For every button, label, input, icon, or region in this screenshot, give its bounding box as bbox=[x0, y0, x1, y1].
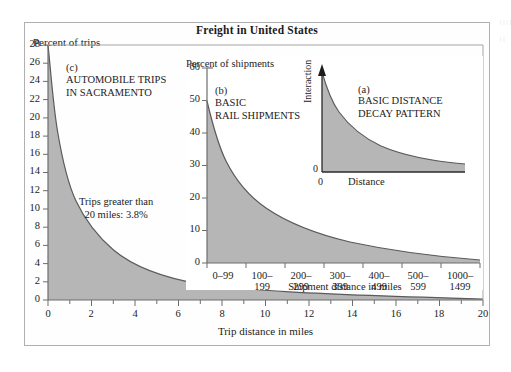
main-x-ticks bbox=[48, 300, 483, 306]
main-y-tick-8: 8 bbox=[14, 220, 40, 231]
main-x-tick-10: 10 bbox=[251, 308, 279, 319]
main-y-tick-20: 20 bbox=[14, 111, 40, 122]
inset-a-x-axis-title: Distance bbox=[348, 176, 385, 187]
main-y-tick-26: 26 bbox=[14, 56, 40, 67]
page-margin-bleed-text: | | | | | | bbox=[500, 14, 511, 94]
inset-b-y-tick-20: 20 bbox=[176, 191, 200, 202]
inset-b-x-tick-0-top: 0–99 bbox=[213, 270, 234, 281]
inset-b-y-tick-30: 30 bbox=[176, 158, 200, 169]
panel-a-title-line2: DECAY PATTERN bbox=[358, 108, 443, 121]
panel-c-title: AUTOMOBILE TRIPS IN SACRAMENTO bbox=[66, 74, 166, 100]
main-y-tick-16: 16 bbox=[14, 147, 40, 158]
panel-b-title-line2: RAIL SHIPMENTS bbox=[215, 110, 300, 123]
inset-b-x-axis-title: Shipment distance in miles bbox=[200, 281, 490, 292]
panel-c-title-line1: AUTOMOBILE TRIPS bbox=[66, 74, 166, 87]
inset-b-y-tick-10: 10 bbox=[176, 223, 200, 234]
main-x-tick-2: 2 bbox=[77, 308, 105, 319]
main-x-tick-4: 4 bbox=[121, 308, 149, 319]
inset-a-x-origin-label: 0 bbox=[318, 176, 323, 187]
panel-a-title-line1: BASIC DISTANCE bbox=[358, 95, 443, 108]
main-x-tick-6: 6 bbox=[164, 308, 192, 319]
panel-b-tag: (b) bbox=[215, 85, 227, 98]
inset-b-y-tick-60: 60 bbox=[176, 61, 200, 72]
main-x-tick-0: 0 bbox=[34, 308, 62, 319]
inset-a-y-origin-label: 0 bbox=[313, 163, 318, 174]
main-y-tick-18: 18 bbox=[14, 129, 40, 140]
main-x-tick-20: 20 bbox=[469, 308, 497, 319]
panel-c-title-line2: IN SACRAMENTO bbox=[66, 87, 166, 100]
inset-b-x-tick-6-top: 1000– bbox=[434, 270, 486, 281]
main-y-tick-22: 22 bbox=[14, 93, 40, 104]
main-y-tick-0: 0 bbox=[14, 293, 40, 304]
main-y-tick-12: 12 bbox=[14, 184, 40, 195]
main-y-tick-2: 2 bbox=[14, 275, 40, 286]
main-y-tick-10: 10 bbox=[14, 202, 40, 213]
main-y-tick-6: 6 bbox=[14, 238, 40, 249]
panel-c-annotation-line1: Trips greater than bbox=[79, 196, 153, 209]
main-y-tick-14: 14 bbox=[14, 165, 40, 176]
main-y-tick-24: 24 bbox=[14, 74, 40, 85]
main-x-tick-18: 18 bbox=[425, 308, 453, 319]
panel-c-annotation: Trips greater than 20 miles: 3.8% bbox=[79, 196, 153, 222]
inset-a-y-axis-title: Interaction bbox=[302, 60, 313, 103]
main-x-axis-title: Trip distance in miles bbox=[48, 325, 483, 337]
inset-b-y-tick-0: 0 bbox=[176, 256, 200, 267]
main-y-ticks bbox=[43, 45, 48, 300]
main-x-tick-8: 8 bbox=[208, 308, 236, 319]
main-x-tick-14: 14 bbox=[338, 308, 366, 319]
main-x-tick-16: 16 bbox=[382, 308, 410, 319]
main-y-tick-4: 4 bbox=[14, 257, 40, 268]
panel-a-title: BASIC DISTANCE DECAY PATTERN bbox=[358, 95, 443, 121]
main-x-tick-12: 12 bbox=[295, 308, 323, 319]
panel-b-title-line1: BASIC bbox=[215, 97, 300, 110]
inset-b-y-tick-40: 40 bbox=[176, 126, 200, 137]
panel-c-tag: (c) bbox=[66, 62, 78, 75]
panel-b-title: BASIC RAIL SHIPMENTS bbox=[215, 97, 300, 123]
panel-c-annotation-line2: 20 miles: 3.8% bbox=[79, 209, 153, 222]
inset-b-y-tick-50: 50 bbox=[176, 93, 200, 104]
main-y-tick-28: 28 bbox=[14, 38, 40, 49]
freight-figure: Freight in United States Percent of trip… bbox=[0, 0, 511, 372]
